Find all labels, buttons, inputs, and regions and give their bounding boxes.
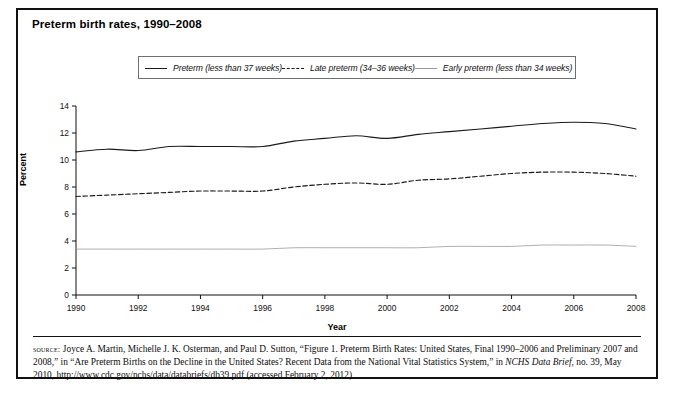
series-line-1 [76, 172, 636, 196]
svg-text:6: 6 [64, 209, 69, 219]
x-axis-label: Year [0, 322, 674, 332]
svg-text:2000: 2000 [378, 303, 397, 313]
svg-text:4: 4 [64, 236, 69, 246]
series-line-0 [76, 122, 636, 152]
legend-label-late-preterm: Late preterm (34–36 weeks) [310, 63, 415, 73]
svg-text:2004: 2004 [502, 303, 521, 313]
svg-text:14: 14 [60, 101, 70, 111]
legend-label-preterm: Preterm (less than 37 weeks) [173, 63, 282, 73]
legend-item-early-preterm: Early preterm (less than 34 weeks) [415, 63, 572, 73]
figure-container: Preterm birth rates, 1990–2008 Preterm (… [0, 0, 674, 393]
svg-text:0: 0 [64, 290, 69, 300]
source-note: source: Joyce A. Martin, Michelle J. K. … [33, 343, 643, 383]
legend-label-early-preterm: Early preterm (less than 34 weeks) [443, 63, 572, 73]
y-axis-label: Percent [18, 153, 28, 186]
source-divider [33, 336, 641, 337]
legend-key-light-icon [415, 64, 437, 72]
source-prefix: source: [33, 344, 60, 354]
source-italic-title: NCHS Data Brief [505, 357, 571, 367]
svg-text:1998: 1998 [316, 303, 335, 313]
svg-text:8: 8 [64, 182, 69, 192]
line-chart: 0246810121419901992199419961998200020022… [28, 96, 648, 331]
legend-item-late-preterm: Late preterm (34–36 weeks) [282, 63, 415, 73]
svg-text:2002: 2002 [440, 303, 459, 313]
svg-text:2006: 2006 [564, 303, 583, 313]
svg-text:12: 12 [60, 128, 70, 138]
svg-text:1992: 1992 [129, 303, 148, 313]
svg-text:2: 2 [64, 263, 69, 273]
legend-key-solid-icon [145, 64, 167, 72]
legend-key-dashed-icon [282, 64, 304, 72]
legend-item-preterm: Preterm (less than 37 weeks) [145, 63, 282, 73]
svg-text:1990: 1990 [67, 303, 86, 313]
svg-text:2008: 2008 [627, 303, 646, 313]
svg-text:1996: 1996 [253, 303, 272, 313]
plot-area: 0246810121419901992199419961998200020022… [28, 96, 648, 331]
svg-text:10: 10 [60, 155, 70, 165]
series-line-2 [76, 245, 636, 249]
svg-text:1994: 1994 [191, 303, 210, 313]
page-title: Preterm birth rates, 1990–2008 [32, 18, 202, 30]
chart-legend: Preterm (less than 37 weeks) Late preter… [138, 56, 576, 79]
